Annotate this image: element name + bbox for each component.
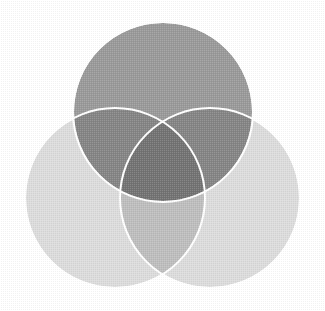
venn-diagram-figure xyxy=(0,0,325,311)
venn-diagram-canvas xyxy=(0,0,325,311)
halftone-texture-overlay xyxy=(0,0,325,311)
